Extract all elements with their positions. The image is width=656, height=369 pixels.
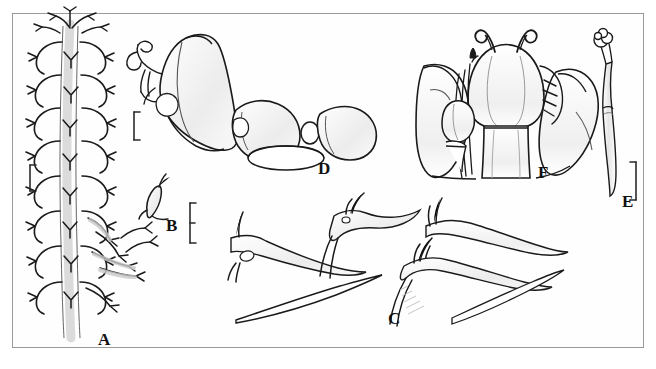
panel-d-artwork — [127, 35, 377, 170]
panel-label-e: E — [622, 193, 634, 210]
panel-label-a: A — [98, 331, 111, 348]
panel-a-artwork — [26, 7, 158, 338]
panel-c-artwork — [228, 193, 568, 326]
scale-bar-B — [190, 203, 196, 243]
panel-f-artwork — [416, 30, 598, 179]
plate-artwork — [0, 0, 656, 369]
scale-bar-D — [134, 112, 140, 140]
figure-plate: A B C D E F — [0, 0, 656, 369]
scale-bar-A — [30, 165, 36, 191]
panel-label-b: B — [166, 217, 178, 234]
panel-label-f: F — [538, 164, 549, 181]
panel-label-c: C — [388, 310, 401, 327]
panel-label-d: D — [318, 160, 331, 177]
panel-e-artwork — [594, 29, 636, 201]
